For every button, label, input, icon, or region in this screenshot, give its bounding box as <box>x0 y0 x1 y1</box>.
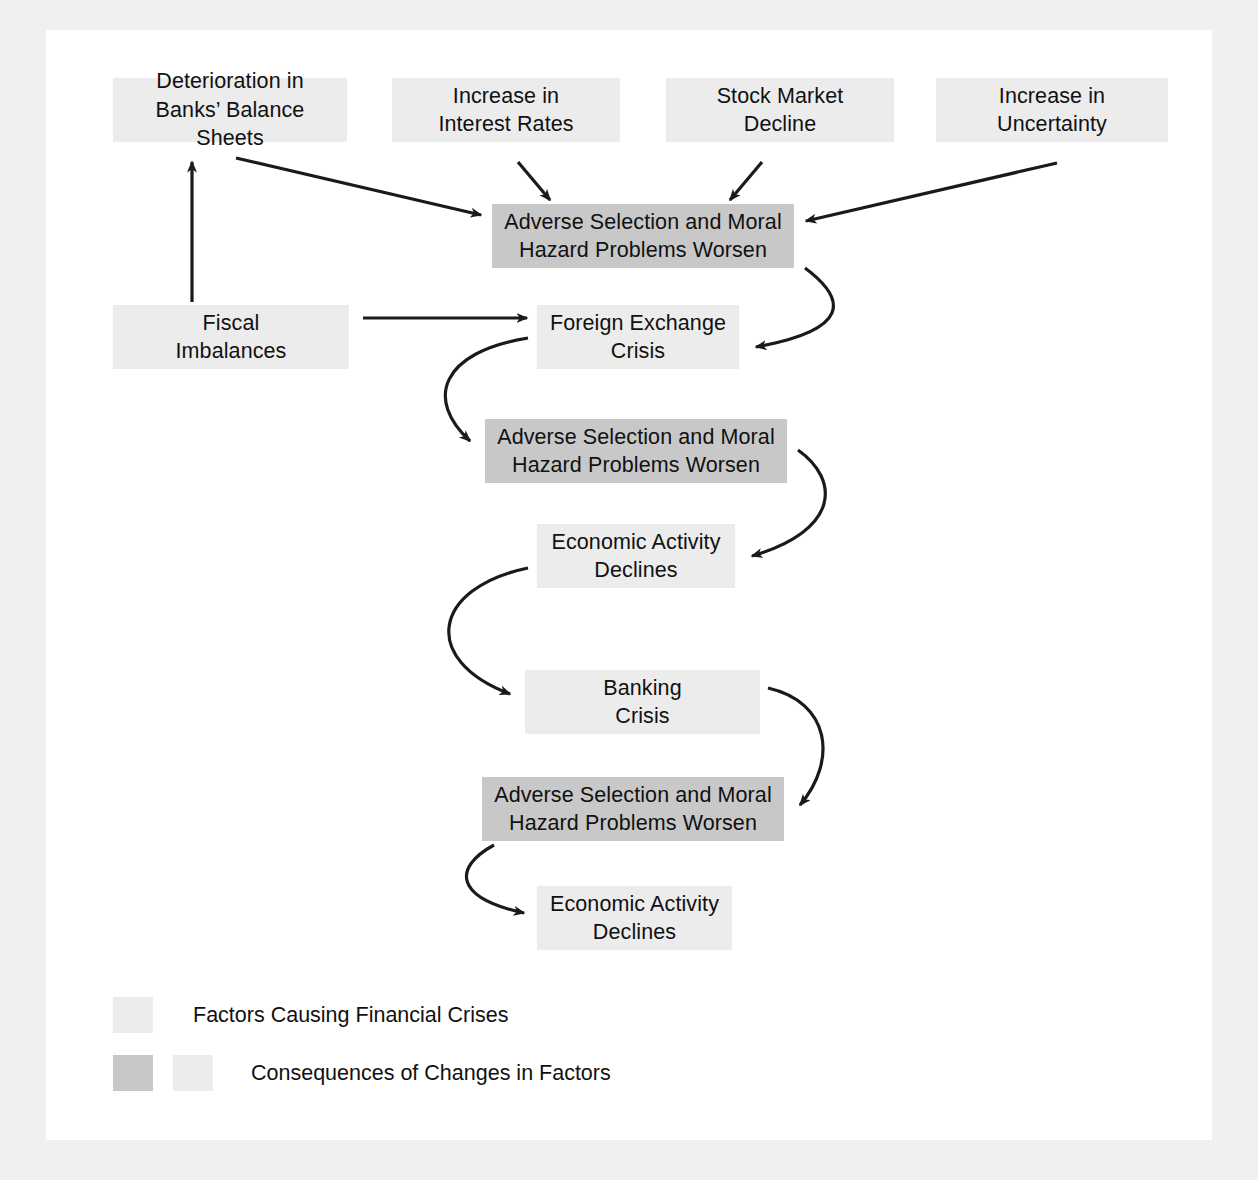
legend-label-factors: Factors Causing Financial Crises <box>193 1003 508 1028</box>
edge-deterioration-to-adverse1 <box>236 158 481 215</box>
node-economic-activity-1[interactable]: Economic Activity Declines <box>537 524 735 588</box>
edge-econ1-to-banking <box>449 568 528 694</box>
node-adverse-selection-2[interactable]: Adverse Selection and Moral Hazard Probl… <box>485 419 787 483</box>
edge-interest-to-adverse1 <box>518 162 550 200</box>
node-stock-market-decline[interactable]: Stock Market Decline <box>666 78 894 142</box>
node-increase-interest-rates[interactable]: Increase in Interest Rates <box>392 78 620 142</box>
edge-uncertainty-to-adverse1 <box>806 163 1057 221</box>
node-adverse-selection-3[interactable]: Adverse Selection and Moral Hazard Probl… <box>482 777 784 841</box>
node-fiscal-imbalances[interactable]: Fiscal Imbalances <box>113 305 349 369</box>
node-banking-crisis[interactable]: Banking Crisis <box>525 670 760 734</box>
figure-canvas: Deterioration in Banks’ Balance Sheets I… <box>0 0 1258 1180</box>
legend-swatch-light-factors <box>113 997 153 1033</box>
edge-stock-to-adverse1 <box>730 162 762 200</box>
edge-adverse1-to-fx <box>756 268 833 347</box>
node-economic-activity-2[interactable]: Economic Activity Declines <box>537 886 732 950</box>
node-adverse-selection-1[interactable]: Adverse Selection and Moral Hazard Probl… <box>492 204 794 268</box>
node-increase-uncertainty[interactable]: Increase in Uncertainty <box>936 78 1168 142</box>
legend-swatch-light-consequences <box>173 1055 213 1091</box>
node-foreign-exchange-crisis[interactable]: Foreign Exchange Crisis <box>537 305 739 369</box>
legend-row-factors: Factors Causing Financial Crises <box>113 997 508 1033</box>
legend-label-consequences: Consequences of Changes in Factors <box>251 1061 611 1086</box>
edge-adverse3-to-econ2b <box>466 845 524 913</box>
legend-swatch-shaded-consequences <box>113 1055 153 1091</box>
node-deterioration-banks[interactable]: Deterioration in Banks’ Balance Sheets <box>113 78 347 142</box>
legend-row-consequences: Consequences of Changes in Factors <box>113 1055 611 1091</box>
